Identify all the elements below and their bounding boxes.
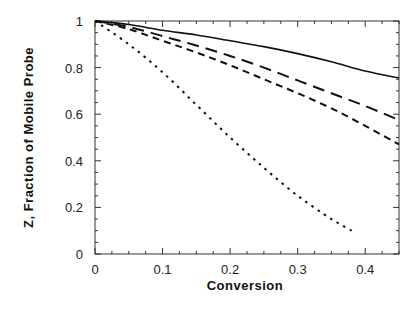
x-tick-label: 0.1 (154, 262, 172, 277)
series-long-dash (95, 21, 399, 120)
series-short-dash (95, 21, 399, 144)
plot-frame (95, 21, 399, 254)
line-chart: 00.10.20.30.400.20.40.60.81ConversionZ, … (0, 0, 420, 311)
y-axis-title: Z, Fraction of Mobile Probe (21, 47, 36, 228)
y-tick-label: 0.8 (65, 61, 83, 76)
x-tick-label: 0.3 (289, 262, 307, 277)
y-tick-label: 0 (76, 247, 83, 262)
y-tick-label: 0.2 (65, 200, 83, 215)
x-tick-label: 0.2 (221, 262, 239, 277)
series-dotted (95, 21, 352, 231)
y-tick-label: 0.6 (65, 107, 83, 122)
x-tick-label: 0.4 (356, 262, 374, 277)
y-tick-label: 1 (76, 14, 83, 29)
y-tick-label: 0.4 (65, 154, 83, 169)
x-axis-title: Conversion (207, 278, 284, 293)
x-tick-label: 0 (91, 262, 98, 277)
